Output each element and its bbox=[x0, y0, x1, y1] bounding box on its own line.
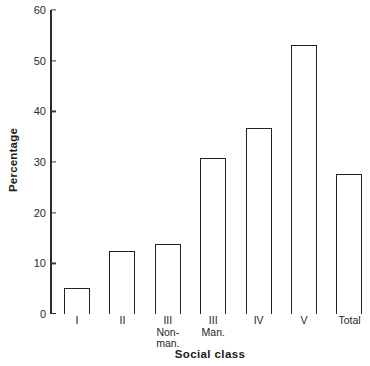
y-axis-title-text: Percentage bbox=[7, 128, 19, 192]
x-axis-tick-label: II bbox=[97, 315, 147, 327]
y-axis-tick-mark bbox=[51, 212, 56, 213]
bar-slot bbox=[109, 10, 135, 314]
y-axis-tick-mark bbox=[51, 9, 56, 10]
plot-area bbox=[50, 10, 370, 314]
bar-slot bbox=[64, 10, 90, 314]
y-axis-tick-labels: 6050403020100 bbox=[22, 0, 46, 320]
x-axis-title: Social class bbox=[50, 348, 370, 360]
x-axis-tick-label-line: II bbox=[97, 315, 147, 327]
x-axis-tick-label-line: Man. bbox=[188, 327, 238, 339]
x-axis-tick-label: IIIMan. bbox=[188, 315, 238, 338]
bar[interactable] bbox=[109, 251, 135, 314]
x-axis-tick-label-line: V bbox=[279, 315, 329, 327]
y-axis-tick-label: 0 bbox=[40, 308, 46, 320]
y-axis-tick-label: 40 bbox=[34, 105, 46, 117]
x-axis-tick-label: I bbox=[52, 315, 102, 327]
y-axis-tick-mark bbox=[51, 60, 56, 61]
bar-slot bbox=[200, 10, 226, 314]
y-axis-tick-label: 20 bbox=[34, 207, 46, 219]
y-axis-tick-mark bbox=[51, 161, 56, 162]
bar[interactable] bbox=[291, 45, 317, 314]
x-axis-tick-label: IV bbox=[234, 315, 284, 327]
bar[interactable] bbox=[246, 128, 272, 314]
bar-slot bbox=[246, 10, 272, 314]
x-axis-tick-label: V bbox=[279, 315, 329, 327]
y-axis-tick-label: 10 bbox=[34, 257, 46, 269]
bar[interactable] bbox=[200, 158, 226, 314]
y-axis-tick-label: 30 bbox=[34, 156, 46, 168]
x-axis-tick-label-line: III bbox=[143, 315, 193, 327]
x-axis-tick-label: Total bbox=[324, 315, 370, 327]
y-axis-tick-label: 60 bbox=[34, 4, 46, 16]
bar-chart: Percentage 6050403020100 IIIIIINon-man.I… bbox=[0, 0, 370, 366]
bar[interactable] bbox=[64, 288, 90, 314]
x-axis-tick-label-line: Total bbox=[324, 315, 370, 327]
x-axis-tick-label-line: I bbox=[52, 315, 102, 327]
x-axis-tick-label: IIINon-man. bbox=[143, 315, 193, 350]
bar[interactable] bbox=[155, 244, 181, 314]
bar-slot bbox=[291, 10, 317, 314]
y-axis-tick-label: 50 bbox=[34, 55, 46, 67]
y-axis-tick-mark bbox=[51, 263, 56, 264]
y-axis-tick-mark bbox=[51, 111, 56, 112]
bar[interactable] bbox=[336, 174, 362, 314]
x-axis-tick-label-line: IV bbox=[234, 315, 284, 327]
x-axis-tick-label-line: III bbox=[188, 315, 238, 327]
bar-slot bbox=[155, 10, 181, 314]
bar-slot bbox=[336, 10, 362, 314]
